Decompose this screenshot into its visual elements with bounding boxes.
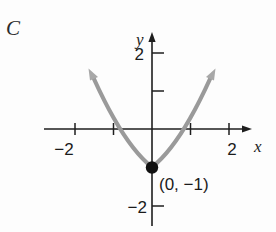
x-tick-label-pos2: 2 (227, 140, 236, 159)
vertex-point-label: (0, −1) (159, 175, 209, 194)
curve-arrow-left (89, 69, 99, 81)
figure-panel: C (0, 0, 276, 232)
y-tick-label-pos2: 2 (135, 45, 144, 64)
vertex-point-marker (146, 161, 158, 173)
y-tick-label-neg2: −2 (128, 198, 147, 217)
x-tick-label-neg2: −2 (54, 140, 73, 159)
coordinate-plane-graph: y x −2 2 2 −2 (0, −1) (0, 0, 276, 232)
x-axis-label: x (253, 137, 262, 156)
x-axis (44, 123, 252, 135)
curve-arrow-right (206, 69, 216, 81)
